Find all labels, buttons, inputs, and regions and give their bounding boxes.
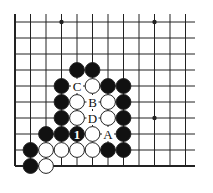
black-stone xyxy=(116,127,131,142)
move-number-label: 1 xyxy=(74,127,81,142)
black-stone xyxy=(116,95,131,110)
star-point-icon xyxy=(152,116,156,120)
point-label-b: B xyxy=(88,95,97,110)
black-stone xyxy=(54,111,69,126)
black-stone xyxy=(54,127,69,142)
star-point-icon xyxy=(152,20,156,24)
white-stone xyxy=(85,127,100,142)
white-stone xyxy=(101,111,116,126)
white-stone xyxy=(70,111,85,126)
white-stone xyxy=(54,143,69,158)
black-stone xyxy=(23,143,38,158)
black-stone xyxy=(70,63,85,78)
white-stone xyxy=(39,159,54,174)
black-stone xyxy=(85,63,100,78)
point-label-c: C xyxy=(73,79,82,94)
black-stone xyxy=(101,143,116,158)
white-stone xyxy=(101,95,116,110)
white-stone xyxy=(70,95,85,110)
white-stone xyxy=(39,143,54,158)
black-stone xyxy=(116,143,131,158)
black-stone xyxy=(101,79,116,94)
go-board: CBDA 1 xyxy=(0,0,213,193)
black-stone xyxy=(54,95,69,110)
black-stone xyxy=(116,79,131,94)
star-point-icon xyxy=(59,20,63,24)
point-label-d: D xyxy=(88,111,97,126)
white-stone xyxy=(70,143,85,158)
black-stone xyxy=(116,111,131,126)
black-stone xyxy=(54,79,69,94)
black-stone xyxy=(39,127,54,142)
white-stone xyxy=(85,79,100,94)
white-stone xyxy=(85,143,100,158)
black-stone xyxy=(23,159,38,174)
point-label-a: A xyxy=(103,127,113,142)
